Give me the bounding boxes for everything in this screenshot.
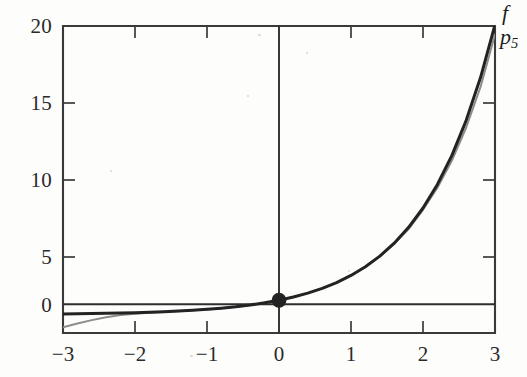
plot-canvas <box>0 0 527 377</box>
ytick-label-15: 15 <box>18 93 52 114</box>
xtick-label-2: 2 <box>418 344 429 365</box>
curve-label-p5-subscript: 5 <box>511 35 518 51</box>
xtick-label-minus2: −2 <box>124 344 147 365</box>
xtick-label-3: 3 <box>490 344 501 365</box>
curve-label-f: f <box>502 2 508 24</box>
y-tick-marks-right <box>483 103 495 257</box>
ytick-label-20: 20 <box>18 16 52 37</box>
taylor-polynomial-figure: 20 15 10 5 0 −3 −2 −1 0 1 2 3 f p5 <box>0 0 527 377</box>
tangency-point-group <box>272 293 287 308</box>
xtick-label-minus1: −1 <box>196 344 219 365</box>
curve-label-p5: p5 <box>500 26 518 51</box>
xtick-label-0: 0 <box>274 344 285 365</box>
zero-axes <box>63 26 495 333</box>
ytick-label-10: 10 <box>18 170 52 191</box>
xtick-label-1: 1 <box>346 344 357 365</box>
xtick-label-minus3: −3 <box>52 344 75 365</box>
y-tick-marks <box>63 26 75 257</box>
curve-label-p5-base: p <box>500 24 511 49</box>
tangency-point-marker <box>272 293 287 308</box>
ytick-label-5: 5 <box>18 247 52 268</box>
ytick-label-0: 0 <box>18 295 52 316</box>
